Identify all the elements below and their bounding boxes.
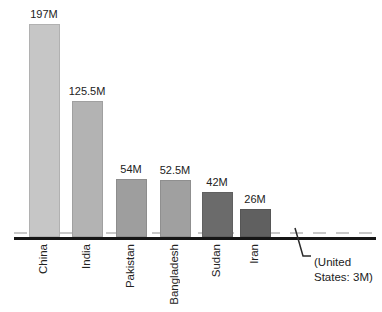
- category-label-india: India: [80, 244, 92, 269]
- value-label-china: 197M: [14, 8, 74, 20]
- x-axis-line: [14, 237, 376, 240]
- bar-china: [29, 24, 60, 237]
- bar-pakistan: [116, 179, 147, 237]
- us-annotation-line2: States: 3M): [314, 270, 373, 285]
- us-annotation: (United States: 3M): [314, 255, 373, 285]
- us-annotation-line1: (United: [314, 255, 373, 270]
- category-label-bangladesh: Bangladesh: [168, 244, 180, 305]
- category-label-pakistan: Pakistan: [124, 244, 136, 288]
- category-label-china: China: [37, 244, 49, 274]
- value-label-iran: 26M: [225, 193, 285, 205]
- value-label-bangladesh: 52.5M: [145, 164, 205, 176]
- bar-india: [72, 101, 103, 237]
- category-label-iran: Iran: [248, 244, 260, 264]
- value-label-india: 125.5M: [57, 85, 117, 97]
- us-level-dashed-reference-line: [14, 232, 376, 234]
- bar-iran: [240, 209, 271, 237]
- bar-chart: 197MChina125.5MIndia54MPakistan52.5MBang…: [0, 0, 382, 312]
- category-label-sudan: Sudan: [210, 244, 222, 277]
- bar-bangladesh: [160, 180, 191, 237]
- value-label-sudan: 42M: [187, 176, 247, 188]
